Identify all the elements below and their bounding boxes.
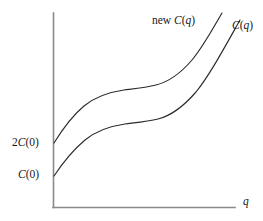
label-x-axis-q: q [243, 196, 249, 208]
label-original-cost-curve: C(q) [232, 20, 253, 32]
label-y-intercept-c0: C(0) [18, 169, 39, 181]
curve-original-cost [54, 20, 240, 176]
label-new-cost-curve: new C(q) [152, 15, 195, 27]
curve-new-cost [54, 13, 222, 143]
label-y-intercept-2c0: 2C(0) [12, 137, 39, 149]
plot-canvas [0, 0, 263, 221]
cost-curve-figure: new C(q) C(q) 2C(0) C(0) q [0, 0, 263, 221]
